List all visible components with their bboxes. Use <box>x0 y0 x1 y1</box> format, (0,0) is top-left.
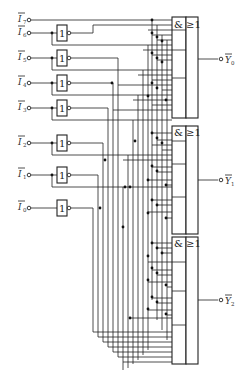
svg-text:≥1: ≥1 <box>186 238 201 249</box>
input-terminal-icon <box>27 141 31 145</box>
svg-text:I: I <box>17 169 22 179</box>
inverter-I1: 1 <box>57 167 71 183</box>
input-I2: I 2 <box>17 136 31 148</box>
input-I4: I 4 <box>17 76 31 88</box>
svg-text:I: I <box>17 27 22 37</box>
svg-text:1: 1 <box>59 53 65 64</box>
inverter-I2: 1 <box>57 135 71 151</box>
input-I3: I 3 <box>17 101 31 113</box>
input-I7: I 7 <box>17 13 31 25</box>
svg-text:≥1: ≥1 <box>186 127 201 138</box>
input-terminal-icon <box>27 18 31 22</box>
svg-text:&: & <box>174 238 183 249</box>
inverter-I4: 1 <box>57 75 71 91</box>
svg-text:I: I <box>17 137 22 147</box>
gate-Y2: & ≥1 Y 2 <box>172 237 235 364</box>
input-I6: I 6 <box>17 26 31 38</box>
svg-text:4: 4 <box>23 82 27 88</box>
svg-text:2: 2 <box>23 142 27 148</box>
output-terminal-icon <box>219 298 223 302</box>
svg-text:1: 1 <box>59 170 65 181</box>
svg-text:≥1: ≥1 <box>186 19 201 30</box>
gate-Y0: & ≥1 Y 0 <box>172 17 235 118</box>
svg-text:1: 1 <box>59 138 65 149</box>
svg-text:1: 1 <box>23 174 27 180</box>
svg-text:1: 1 <box>59 203 65 214</box>
svg-text:1: 1 <box>59 78 65 89</box>
input-I0: I 0 <box>17 201 31 213</box>
input-label-I7: I <box>17 14 22 24</box>
inverter-I5: 1 <box>57 50 71 66</box>
inverter-I6: 1 <box>57 25 71 41</box>
svg-text:5: 5 <box>23 57 27 63</box>
svg-text:0: 0 <box>23 207 27 213</box>
svg-text:2: 2 <box>231 301 235 307</box>
output-terminal-icon <box>219 57 223 61</box>
svg-text:7: 7 <box>23 19 27 25</box>
svg-text:1: 1 <box>59 103 65 114</box>
gate-feed-lines <box>93 30 172 362</box>
svg-text:I: I <box>17 52 22 62</box>
svg-text:&: & <box>174 19 183 30</box>
svg-text:&: & <box>174 127 183 138</box>
input-terminal-icon <box>27 31 31 35</box>
inverter-I3: 1 <box>57 100 71 116</box>
input-terminal-icon <box>27 206 31 210</box>
output-terminal-icon <box>219 178 223 182</box>
input-terminal-icon <box>27 81 31 85</box>
input-terminal-icon <box>27 56 31 60</box>
gate-Y1: & ≥1 Y 1 <box>172 126 235 234</box>
svg-text:0: 0 <box>231 60 235 66</box>
svg-text:I: I <box>17 202 22 212</box>
input-terminal-icon <box>27 106 31 110</box>
input-I5: I 5 <box>17 51 31 63</box>
input-I1: I 1 <box>17 168 31 180</box>
svg-text:I: I <box>17 102 22 112</box>
inverter-I0: 1 <box>57 200 71 216</box>
svg-text:1: 1 <box>231 181 235 187</box>
svg-text:I: I <box>17 77 22 87</box>
svg-text:1: 1 <box>59 28 65 39</box>
svg-text:3: 3 <box>23 107 27 113</box>
svg-text:6: 6 <box>23 32 27 38</box>
encoder-diagram: I 7 I 6 I 5 I 4 I 3 I 2 I 1 I <box>0 0 249 377</box>
input-terminal-icon <box>27 173 31 177</box>
